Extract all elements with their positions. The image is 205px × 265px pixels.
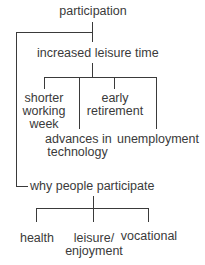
connector-advances-in-technology xyxy=(79,77,80,129)
connector-shorter-working-week xyxy=(44,77,45,89)
node-vocational: vocational xyxy=(120,230,178,243)
connector-left-spine xyxy=(16,32,17,187)
connector-vocational xyxy=(148,208,149,222)
connector-branch1-horizontal xyxy=(44,77,157,78)
node-unemployment-line1: unemployment xyxy=(117,133,197,146)
connector-branch1-stem xyxy=(92,63,93,78)
node-leisure-enjoyment: leisure/ enjoyment xyxy=(65,232,123,258)
connector-leisure-enjoyment xyxy=(93,208,94,222)
root-node-participation: participation xyxy=(58,5,128,18)
node-shorter-working-week: shorter working week xyxy=(20,92,68,131)
connector-root-horizontal xyxy=(16,32,93,33)
connector-early-retirement xyxy=(114,77,115,89)
node-shorter-line3: week xyxy=(20,118,68,131)
node-early-retirement: early retirement xyxy=(85,92,145,118)
node-unemployment: unemployment xyxy=(117,133,197,146)
node-vocational-line1: vocational xyxy=(120,230,178,243)
connector-branch2-hook xyxy=(16,186,28,187)
connector-health xyxy=(36,208,37,222)
node-advances-line2: technology xyxy=(45,146,110,159)
node-why-people-participate: why people participate xyxy=(30,180,155,193)
connector-unemployment xyxy=(156,77,157,129)
node-advances-in-technology: advances in technology xyxy=(45,133,110,159)
node-health-line1: health xyxy=(18,232,56,245)
node-health: health xyxy=(18,232,56,245)
node-early-line2: retirement xyxy=(85,105,145,118)
node-increased-leisure-time: increased leisure time xyxy=(37,47,152,60)
node-leisure-line2: enjoyment xyxy=(65,245,123,258)
